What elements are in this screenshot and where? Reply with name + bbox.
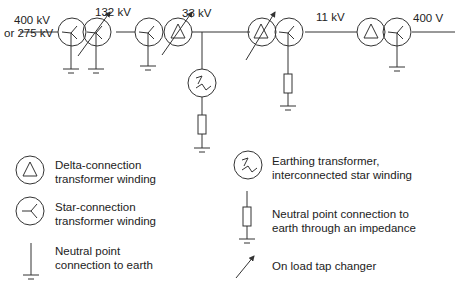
legend-delta-icon	[16, 156, 44, 184]
legend-star-line2: transformer winding	[55, 214, 156, 228]
transformer-400-132	[58, 12, 111, 73]
legend-delta-line1: Delta-connection	[55, 158, 156, 172]
legend-star-line1: Star-connection	[55, 200, 156, 214]
legend-tap-changer-icon	[236, 256, 254, 278]
label-or-275kv: or 275 kV	[4, 27, 53, 40]
transformer-33-11	[246, 12, 303, 110]
legend-earth-line1: Neutral point	[55, 244, 153, 258]
label-11kv: 11 kV	[316, 11, 345, 24]
legend-earth-icon	[23, 243, 39, 279]
label-132kv: 132 kV	[95, 6, 131, 19]
transformer-132-33	[135, 12, 192, 70]
legend-impedance-line2: earth through an impedance	[272, 221, 416, 235]
legend-delta-label: Delta-connection transformer winding	[55, 158, 156, 186]
label-400kv: 400 kV	[14, 14, 50, 27]
label-33kv: 33 kV	[182, 7, 211, 20]
legend-earth-label: Neutral point connection to earth	[55, 244, 153, 272]
legend-earthing-transformer-line2: interconnected star winding	[272, 168, 412, 182]
legend-delta-line2: transformer winding	[55, 172, 156, 186]
earthing-transformer-33kv	[188, 32, 216, 152]
legend-impedance-icon	[239, 191, 255, 243]
legend-star-icon	[16, 197, 44, 225]
legend-impedance-line1: Neutral point connection to	[272, 207, 416, 221]
legend-earthing-transformer-label: Earthing transformer, interconnected sta…	[272, 154, 412, 182]
transformer-11kv-400v	[357, 18, 411, 71]
legend-star-label: Star-connection transformer winding	[55, 200, 156, 228]
legend-tap-changer-label: On load tap changer	[272, 259, 376, 273]
legend-tap-changer-line1: On load tap changer	[272, 259, 376, 273]
label-400v: 400 V	[413, 12, 443, 25]
legend-earth-line2: connection to earth	[55, 258, 153, 272]
tap-changer-icon	[246, 12, 275, 60]
legend-earthing-transformer-line1: Earthing transformer,	[272, 154, 412, 168]
legend-impedance-label: Neutral point connection to earth throug…	[272, 207, 416, 235]
legend-earthing-transformer-icon	[234, 151, 262, 179]
